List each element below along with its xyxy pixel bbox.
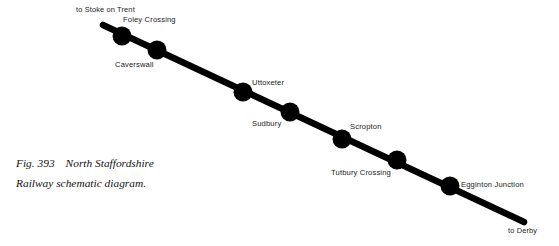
station-dot-tutbury-crossing — [388, 151, 407, 170]
terminus-label-derby: to Derby — [508, 226, 537, 235]
station-label-egginton-junction: Egginton Junction — [461, 180, 524, 189]
station-dot-caverswall — [148, 41, 167, 60]
station-label-caverswall: Caverswall — [115, 60, 154, 69]
caption-line-1: Fig. 393North Staffordshire — [16, 154, 236, 174]
station-label-sudbury: Sudbury — [252, 119, 281, 128]
terminus-label-stoke-on-trent: to Stoke on Trent — [76, 5, 135, 14]
figure-title-line-1: North Staffordshire — [66, 157, 154, 169]
railway-schematic-figure: to Stoke on Trent to Derby Foley Crossin… — [0, 0, 559, 246]
figure-caption: Fig. 393North Staffordshire Railway sche… — [16, 154, 236, 193]
station-label-uttoxeter: Uttoxeter — [252, 78, 284, 87]
station-dot-foley-crossing — [113, 27, 132, 46]
station-label-foley-crossing: Foley Crossing — [123, 15, 176, 24]
station-dot-uttoxeter — [234, 83, 253, 102]
station-dot-sudbury — [281, 103, 300, 122]
figure-number: Fig. 393 — [16, 157, 55, 169]
station-dot-egginton-junction — [441, 177, 460, 196]
station-label-scropton: Scropton — [350, 122, 382, 131]
station-label-tutbury-crossing: Tutbury Crossing — [331, 168, 391, 177]
caption-line-2: Railway schematic diagram. — [16, 174, 236, 194]
station-dot-scropton — [333, 130, 352, 149]
